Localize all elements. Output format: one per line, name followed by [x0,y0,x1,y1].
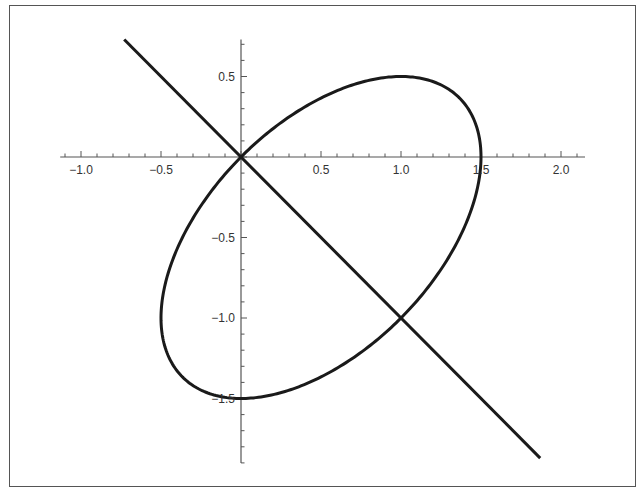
y-tick-label: 0.5 [218,70,235,84]
y-tick-label: −0.5 [211,231,235,245]
x-tick-label: 1.0 [393,163,410,177]
line-curve [124,39,540,458]
plot-canvas: −1.0−0.50.51.01.52.00.5−0.5−1.0−1.5 [0,0,644,492]
axes [60,39,585,462]
y-tick-label: −1.5 [211,392,235,406]
x-tick-label: −0.5 [149,163,173,177]
x-tick-label: 0.5 [313,163,330,177]
x-tick-label: 2.0 [553,163,570,177]
x-tick-label: 1.5 [473,163,490,177]
x-tick-label: −1.0 [69,163,93,177]
curves [124,39,540,458]
y-tick-label: −1.0 [211,311,235,325]
